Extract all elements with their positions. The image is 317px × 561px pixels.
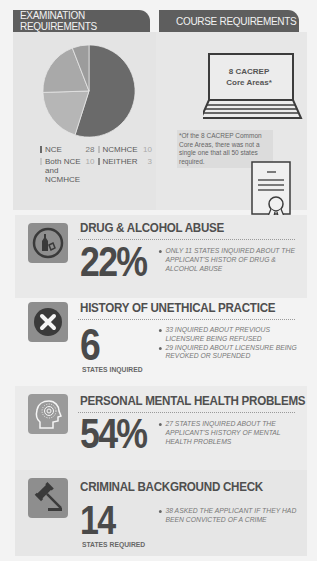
section-drug-alcohol: DRUG & ALCOHOL ABUSE 22% ONLY 11 STATES …	[0, 215, 317, 298]
bottle-icon	[28, 223, 68, 263]
legend-item-ncmhce: NCMHCE 10	[98, 145, 156, 154]
stat-value: 54%	[80, 413, 146, 455]
bullet-list: 38 ASKED THE APPLICANT IF THEY HAD BEEN …	[158, 507, 298, 525]
legend-swatch	[98, 158, 100, 165]
stat-value: 22%	[80, 241, 146, 283]
section-title: HISTORY OF UNETHICAL PRACTICE	[80, 300, 275, 315]
stat-value: 14	[80, 500, 114, 540]
tab-examination-requirements[interactable]: EXAMINATION REQUIREMENTS	[13, 10, 150, 32]
laptop-screen-text: 8 CACREP Core Areas*	[218, 66, 280, 88]
legend-swatch	[98, 146, 100, 153]
section-mental-health: PERSONAL MENTAL HEALTH PROBLEMS 54% 27 S…	[0, 386, 317, 470]
legend-swatch	[40, 146, 42, 153]
tab-course-label: COURSE REQUIREMENTS	[176, 16, 296, 27]
stat-value: 6	[80, 323, 99, 367]
head-brain-icon	[28, 394, 68, 434]
stat-caption: STATES INQUIRED	[82, 365, 143, 374]
x-circle-icon	[28, 302, 68, 342]
bullet-list: 33 INQUIRED ABOUT PREVIOUS LICENSURE BEI…	[158, 326, 298, 361]
exam-pie-chart	[41, 43, 137, 139]
tab-exam-label: EXAMINATION REQUIREMENTS	[20, 10, 150, 32]
pie-legend: NCE 28 NCMHCE 10 Both NCE and NCMHCE 10 …	[40, 145, 155, 177]
section-title: CRIMINAL BACKGROUND CHECK	[80, 479, 263, 494]
legend-item-neither: NEITHER 3	[98, 157, 156, 166]
stat-caption: STATES REQUIRED	[82, 540, 145, 549]
divider	[78, 319, 295, 320]
legend-swatch	[40, 158, 42, 165]
section-unethical-practice: HISTORY OF UNETHICAL PRACTICE 6 STATES I…	[0, 298, 317, 386]
bullet-list: ONLY 11 STATES INQUIRED ABOUT THE APPLIC…	[158, 247, 298, 273]
section-title: PERSONAL MENTAL HEALTH PROBLEMS	[80, 393, 305, 408]
section-title: DRUG & ALCOHOL ABUSE	[80, 220, 224, 235]
gavel-icon	[28, 478, 68, 518]
legend-item-nce: NCE 28	[40, 145, 98, 154]
tab-course-requirements[interactable]: COURSE REQUIREMENTS	[159, 10, 299, 32]
section-criminal-background: CRIMINAL BACKGROUND CHECK 14 STATES REQU…	[0, 470, 317, 556]
legend-item-both: Both NCE and NCMHCE 10	[40, 157, 98, 184]
bullet-list: 27 STATES INQUIRED ABOUT THE APPLICANT'S…	[158, 420, 298, 446]
